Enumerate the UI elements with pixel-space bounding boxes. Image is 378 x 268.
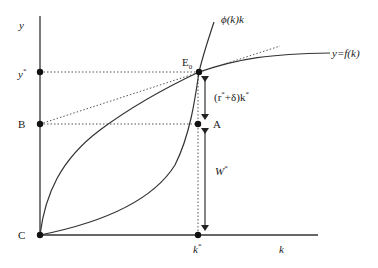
point-y-star	[37, 69, 43, 75]
phi-curve	[40, 22, 214, 235]
label-y-star: y*	[17, 67, 27, 80]
point-k-star	[195, 232, 201, 238]
label-b: B	[18, 118, 25, 130]
label-e0: E0	[182, 56, 193, 71]
diagram: y k y* B C E0 A k* ϕ(k)k y=f(k) (r*+δ)k*…	[0, 0, 378, 268]
label-depreciation: (r*+δ)k*	[214, 90, 249, 104]
production-function-curve	[40, 53, 330, 235]
label-a: A	[213, 118, 221, 130]
label-phi-curve: ϕ(k)k	[221, 13, 245, 26]
x-axis-label: k	[279, 243, 285, 255]
label-production-function: y=f(k)	[331, 47, 360, 60]
point-a	[195, 121, 201, 127]
label-c: C	[18, 229, 25, 241]
y-axis-label: y	[18, 19, 24, 31]
point-b	[37, 121, 43, 127]
tangent-line	[40, 46, 280, 124]
point-e0	[196, 69, 202, 75]
label-k-star: k*	[193, 242, 202, 255]
label-wage: W*	[215, 164, 228, 177]
point-c	[37, 232, 43, 238]
